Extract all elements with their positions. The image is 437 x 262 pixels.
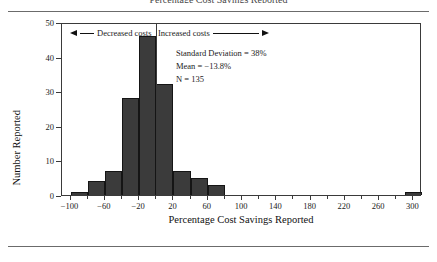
x-tick: [70, 196, 71, 200]
arrow-left-icon: [70, 30, 77, 36]
y-tick: [56, 23, 61, 24]
x-tick-label: 60: [202, 201, 211, 211]
stat-mean: Mean = −13.8%: [176, 60, 266, 73]
top-rule: [8, 11, 429, 12]
x-tick-minor: [224, 196, 225, 199]
y-tick-label: 30: [30, 87, 54, 97]
y-tick-label: 20: [30, 122, 54, 132]
x-tick: [138, 196, 139, 200]
x-tick: [172, 196, 173, 200]
histogram-bar: [405, 192, 422, 195]
x-tick-label: 180: [303, 201, 316, 211]
x-tick: [344, 196, 345, 200]
histogram-bar: [156, 84, 173, 195]
x-tick: [207, 196, 208, 200]
x-tick-label: −100: [61, 201, 79, 211]
histogram-bar: [139, 36, 156, 195]
x-tick: [104, 196, 105, 200]
stat-n: N = 135: [176, 73, 266, 86]
histogram-bar: [173, 171, 190, 195]
x-tick: [241, 196, 242, 200]
x-tick-label: 20: [168, 201, 177, 211]
x-tick-label: 220: [337, 201, 350, 211]
y-tick: [56, 127, 61, 128]
x-tick-label: −60: [97, 201, 110, 211]
x-axis-title: Percentage Cost Savings Reported: [61, 214, 421, 225]
x-tick: [378, 196, 379, 200]
x-tick-minor: [361, 196, 362, 199]
histogram-bar: [71, 192, 88, 195]
x-tick-minor: [258, 196, 259, 199]
x-tick: [275, 196, 276, 200]
arrow-left-shaft: [80, 33, 94, 34]
x-tick-minor: [155, 196, 156, 199]
annotation-increased-label: Increased costs: [158, 28, 210, 38]
y-tick-label: 40: [30, 53, 54, 63]
x-tick-label: 100: [235, 201, 248, 211]
annotation-increased-costs: Increased costs: [158, 28, 269, 38]
arrow-right-icon: [262, 30, 269, 36]
histogram-bar: [105, 171, 122, 195]
x-tick-minor: [190, 196, 191, 199]
figure: Percentage Cost Savings Reported Number …: [0, 0, 437, 262]
annotation-decreased-label: Decreased costs: [97, 28, 152, 38]
stats-block: Standard Deviation = 38% Mean = −13.8% N…: [176, 47, 266, 86]
stat-standard-deviation: Standard Deviation = 38%: [176, 47, 266, 60]
arrow-right-shaft: [213, 33, 259, 34]
x-tick-minor: [292, 196, 293, 199]
x-tick: [310, 196, 311, 200]
bottom-rule: [8, 246, 429, 247]
histogram-bar: [208, 185, 225, 195]
zero-reference-line: [156, 24, 157, 195]
x-tick-minor: [121, 196, 122, 199]
y-tick: [56, 58, 61, 59]
histogram-bar: [191, 178, 208, 195]
y-tick-label: 0: [30, 191, 54, 201]
y-tick: [56, 92, 61, 93]
y-axis-title: Number Reported: [11, 110, 22, 186]
x-tick-label: 300: [406, 201, 419, 211]
histogram-bar: [88, 181, 105, 195]
x-tick-label: 260: [372, 201, 385, 211]
x-tick: [412, 196, 413, 200]
y-tick: [56, 161, 61, 162]
annotation-decreased-costs: Decreased costs: [70, 28, 152, 38]
x-tick-minor: [395, 196, 396, 199]
x-tick-label: 140: [269, 201, 282, 211]
histogram-bar: [122, 98, 139, 195]
figure-title-cropped: Percentage Cost Savings Reported: [0, 0, 437, 3]
x-tick-label: −20: [131, 201, 144, 211]
y-tick-label: 10: [30, 156, 54, 166]
y-tick-label: 50: [30, 18, 54, 28]
x-tick-minor: [327, 196, 328, 199]
x-tick-minor: [87, 196, 88, 199]
